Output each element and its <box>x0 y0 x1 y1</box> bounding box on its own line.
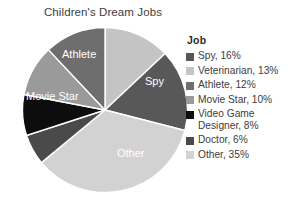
legend-item-label: Movie Star, 10% <box>198 94 272 105</box>
pie-chart-figure: Children's Dream Jobs SpyOtherMovie Star… <box>0 0 297 202</box>
legend-item-label: Spy, 16% <box>198 50 241 61</box>
legend-color-swatch <box>186 137 194 145</box>
legend-item-label: Other, 35% <box>198 149 249 160</box>
legend-item[interactable]: Video Game Designer, 8% <box>186 108 296 131</box>
legend-item[interactable]: Movie Star, 10% <box>186 94 296 105</box>
legend-color-swatch <box>186 151 194 159</box>
legend-color-swatch <box>186 111 194 119</box>
pie-slice-label: Athlete <box>62 48 96 60</box>
legend-color-swatch <box>186 53 194 61</box>
pie-slice-label: Spy <box>145 75 164 87</box>
pie-slice-label: Other <box>117 147 145 159</box>
legend-item-label: Video Game Designer, 8% <box>198 108 259 131</box>
chart-title: Children's Dream Jobs <box>18 6 188 18</box>
legend-item[interactable]: Spy, 16% <box>186 50 296 61</box>
legend-item-list: Spy, 16%Veterinarian, 13%Athlete, 12%Mov… <box>186 50 296 160</box>
legend: Job Spy, 16%Veterinarian, 13%Athlete, 12… <box>186 34 296 164</box>
legend-item-label: Veterinarian, 13% <box>198 65 278 76</box>
pie-slice-label: Movie Star <box>26 90 79 102</box>
legend-item[interactable]: Other, 35% <box>186 149 296 160</box>
legend-item[interactable]: Athlete, 12% <box>186 79 296 90</box>
legend-title: Job <box>187 34 296 46</box>
legend-item[interactable]: Veterinarian, 13% <box>186 65 296 76</box>
pie-plot-area: SpyOtherMovie StarAthlete <box>22 27 188 193</box>
legend-item-label: Doctor, 6% <box>198 134 248 145</box>
legend-color-swatch <box>186 96 194 104</box>
legend-color-swatch <box>186 67 194 75</box>
pie-slice-group <box>23 28 188 193</box>
legend-color-swatch <box>186 82 194 90</box>
pie-svg: SpyOtherMovie StarAthlete <box>22 27 188 193</box>
legend-item-label: Athlete, 12% <box>198 79 256 90</box>
legend-item[interactable]: Doctor, 6% <box>186 134 296 145</box>
